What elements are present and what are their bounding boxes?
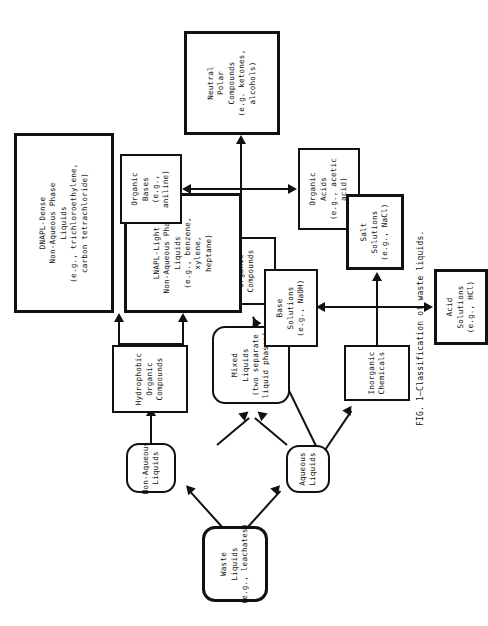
node-base-solutions-line-1: Solutions bbox=[286, 287, 296, 330]
node-lnapl-line-0: LNAPL-Light bbox=[152, 227, 162, 280]
node-salt-solutions[interactable]: Salt Solutions (e.g., NaCl) bbox=[346, 194, 404, 270]
edge-nonaqueous-to-mixed bbox=[216, 417, 249, 446]
node-mixed-line-0: Mixed bbox=[230, 353, 240, 377]
node-aqueous-line-0: Aqueous bbox=[298, 452, 308, 485]
node-lnapl-line-5: heptane) bbox=[204, 234, 214, 272]
node-acid-solutions[interactable]: Acid Solutions (e.g., HCl) bbox=[434, 269, 488, 345]
node-dnapl-line-0: DNAPL-Dense bbox=[38, 197, 48, 250]
node-neutral-polar-line-4: alcohols) bbox=[248, 62, 258, 105]
node-organic-acids-line-0: Organic bbox=[308, 172, 318, 205]
node-mixed-line-1: Liquids bbox=[241, 348, 251, 381]
node-organic-acids-line-1: Acids bbox=[319, 177, 329, 201]
node-salt-solutions-line-2: (e.g., NaCl) bbox=[380, 203, 390, 260]
node-aqueous-line-1: Liquids bbox=[308, 452, 318, 485]
edge-hydrophobic-to-lnapl bbox=[182, 319, 184, 345]
node-waste-liquids-line-2: (e.g., leachates) bbox=[240, 523, 250, 604]
edge-inorganic-to-salt bbox=[376, 277, 378, 345]
node-non-aqueous-line-1: Liquids bbox=[151, 451, 161, 484]
arrowhead-hydrophobic-to-lnapl bbox=[178, 313, 188, 322]
node-lnapl-line-3: (e.g., benzene, bbox=[183, 217, 193, 289]
arrowhead-aqueous-to-inorganic bbox=[342, 403, 355, 416]
node-organic-bases-line-1: Bases bbox=[141, 177, 151, 201]
node-neutral-polar-line-0: Neutral bbox=[206, 66, 216, 99]
figure-caption: FIG. 1—Classification of waste liquids. bbox=[416, 230, 425, 426]
edge-aqueous-to-mixed bbox=[254, 417, 287, 446]
edge-nonaqueous-to-hydrophobic bbox=[150, 413, 152, 445]
edge-waste-to-aqueous bbox=[246, 490, 281, 528]
arrowhead-inorganic-to-salt bbox=[372, 272, 382, 281]
node-dnapl-line-1: Non-Aqueous Phase bbox=[48, 182, 58, 263]
node-inorganic-line-0: Inorganic bbox=[367, 352, 377, 395]
node-base-solutions-line-0: Base bbox=[275, 298, 285, 317]
node-lnapl-line-1: Non-Aqueous Phase bbox=[162, 212, 172, 293]
node-dnapl-line-2: Liquids bbox=[59, 206, 69, 239]
node-non-aqueous-liquids[interactable]: Non-Aqueous Liquids bbox=[126, 443, 176, 493]
node-neutral-polar-compounds[interactable]: Neutral Polar Compounds (e.g. ketones, a… bbox=[184, 31, 280, 135]
node-organic-bases-line-2: (e.g., bbox=[151, 175, 161, 204]
node-neutral-polar-line-2: Compounds bbox=[227, 62, 237, 105]
node-lnapl-line-2: Liquids bbox=[173, 236, 183, 269]
node-dnapl-line-3: (e.g., trichloroethylene, bbox=[69, 163, 79, 282]
node-hydrophobic-organic-compounds[interactable]: Hydrophobic Organic Compounds bbox=[112, 345, 188, 413]
node-waste-liquids[interactable]: Waste Liquids (e.g., leachates) bbox=[202, 526, 268, 602]
node-acid-solutions-line-0: Acid bbox=[445, 297, 455, 316]
node-hydrophobic-line-0: Hydrophobic bbox=[134, 353, 144, 406]
node-neutral-polar-line-3: (e.g. ketones, bbox=[237, 50, 247, 117]
arrowhead-to-acid-solutions bbox=[424, 302, 433, 312]
node-lnapl-line-4: xylene, bbox=[193, 236, 203, 269]
node-base-solutions-line-2: (e.g., NaOH) bbox=[296, 279, 306, 336]
node-inorganic-chemicals[interactable]: Inorganic Chemicals bbox=[344, 345, 410, 401]
edge-hydrophobic-to-dnapl bbox=[118, 319, 120, 345]
node-hydrophobic-line-2: Compounds bbox=[155, 358, 165, 401]
node-mixed-line-2: (two separate bbox=[251, 334, 261, 396]
node-base-solutions[interactable]: Base Solutions (e.g., NaOH) bbox=[264, 269, 318, 347]
node-waste-liquids-line-0: Waste bbox=[219, 552, 229, 576]
node-acid-solutions-line-2: (e.g., HCl) bbox=[466, 281, 476, 334]
node-organic-bases-line-0: Organic bbox=[130, 172, 140, 205]
node-aqueous-liquids[interactable]: Aqueous Liquids bbox=[286, 445, 330, 493]
edge-organicbases-organicacids bbox=[188, 188, 294, 190]
node-salt-solutions-line-0: Salt bbox=[359, 222, 369, 241]
node-organic-acids-line-2: (e.g., acetic bbox=[329, 158, 339, 220]
node-waste-liquids-line-1: Liquids bbox=[230, 547, 240, 580]
edge-base-acid-solutions bbox=[322, 306, 430, 308]
node-hydrophobic-line-1: Organic bbox=[145, 362, 155, 395]
arrowhead-nonaqueous-to-mixed bbox=[238, 408, 251, 421]
node-dnapl[interactable]: DNAPL-Dense Non-Aqueous Phase Liquids (e… bbox=[14, 133, 114, 313]
node-dnapl-line-4: carbon tetrachloride) bbox=[80, 173, 90, 273]
edge-waste-to-nonaqueous bbox=[189, 490, 224, 528]
arrowhead-waste-to-aqueous bbox=[270, 482, 283, 495]
node-hydrophilic-line-2: Compounds bbox=[246, 250, 256, 293]
node-organic-bases[interactable]: Organic Bases (e.g., aniline) bbox=[120, 154, 182, 224]
node-inorganic-line-1: Chemicals bbox=[377, 352, 387, 395]
node-organic-bases-line-3: aniline) bbox=[161, 170, 171, 208]
arrowhead-hydrophilic-to-neutralpolar bbox=[236, 135, 246, 144]
node-neutral-polar-line-1: Polar bbox=[216, 71, 226, 95]
node-acid-solutions-line-1: Solutions bbox=[456, 286, 466, 329]
arrowhead-to-organic-acids bbox=[288, 184, 297, 194]
arrowhead-hydrophobic-to-dnapl bbox=[114, 313, 124, 322]
node-salt-solutions-line-1: Solutions bbox=[370, 211, 380, 254]
node-non-aqueous-line-0: Non-Aqueous bbox=[141, 442, 151, 495]
